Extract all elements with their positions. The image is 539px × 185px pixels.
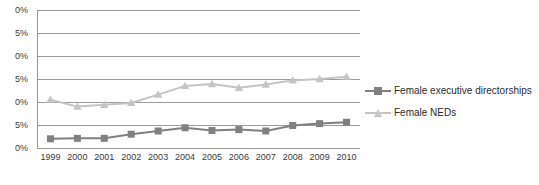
y-axis-tick-label: 5% xyxy=(15,120,28,130)
x-axis-tick-label: 2002 xyxy=(121,152,141,163)
y-axis-labels: 0%5%0%5%0%5%0% xyxy=(0,0,34,185)
plot-area xyxy=(37,10,360,148)
data-point-marker xyxy=(155,127,162,134)
data-point-marker xyxy=(101,135,108,142)
series-layer xyxy=(37,10,360,148)
legend-item-female-neds[interactable]: Female NEDs xyxy=(365,104,539,121)
x-axis-tick-label: 2007 xyxy=(256,152,276,163)
data-point-marker xyxy=(208,127,215,134)
data-point-marker xyxy=(289,122,296,129)
x-axis-tick-label: 2008 xyxy=(283,152,303,163)
chart-legend: Female executive directorships Female NE… xyxy=(365,82,539,126)
y-axis-tick-label: 5% xyxy=(15,74,28,84)
series-line xyxy=(50,122,346,139)
x-axis-tick-label: 2000 xyxy=(67,152,87,163)
x-axis-tick-label: 2010 xyxy=(337,152,357,163)
legend-label: Female NEDs xyxy=(394,107,456,119)
x-axis-tick-label: 2009 xyxy=(310,152,330,163)
data-point-marker xyxy=(343,119,350,126)
x-axis-tick-label: 2004 xyxy=(175,152,195,163)
data-point-marker xyxy=(182,124,189,131)
data-point-marker xyxy=(47,135,54,142)
line-chart: 0%5%0%5%0%5%0% 1999200020012002200320042… xyxy=(0,0,539,185)
legend-marker-square-icon xyxy=(365,85,391,97)
legend-marker-triangle-icon xyxy=(365,107,391,119)
y-axis-tick-label: 0% xyxy=(15,97,28,107)
y-axis-tick-label: 0% xyxy=(15,5,28,15)
x-axis-tick-label: 1999 xyxy=(40,152,60,163)
gridline xyxy=(37,148,360,149)
y-axis-tick-label: 0% xyxy=(15,51,28,61)
data-point-marker xyxy=(235,126,242,133)
y-axis-tick-label: 0% xyxy=(15,143,28,153)
x-axis-labels: 1999200020012002200320042005200620072008… xyxy=(37,152,360,168)
x-axis-tick-label: 2001 xyxy=(94,152,114,163)
y-axis-tick-label: 5% xyxy=(15,28,28,38)
legend-item-female-executive-directorships[interactable]: Female executive directorships xyxy=(365,82,539,99)
x-axis-tick-label: 2006 xyxy=(229,152,249,163)
x-axis-tick-label: 2003 xyxy=(148,152,168,163)
data-point-marker xyxy=(316,120,323,127)
series-line xyxy=(50,77,346,107)
data-point-marker xyxy=(74,135,81,142)
data-point-marker xyxy=(46,96,54,103)
x-axis-tick-label: 2005 xyxy=(202,152,222,163)
legend-label: Female executive directorships xyxy=(394,85,532,97)
data-point-marker xyxy=(262,127,269,134)
data-point-marker xyxy=(128,131,135,138)
